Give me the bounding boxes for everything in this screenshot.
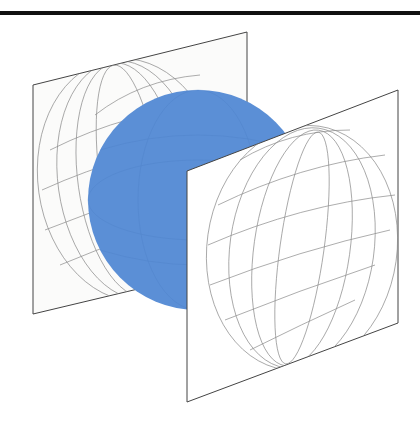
projection-diagram xyxy=(0,0,420,428)
